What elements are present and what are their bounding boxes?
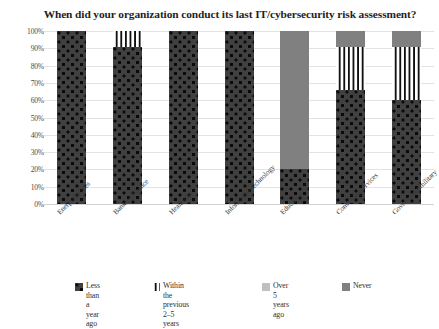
y-axis-tick-label: 80% xyxy=(2,61,44,70)
legend-swatch xyxy=(342,283,350,291)
legend-label: Within the previous 2–5 years xyxy=(163,281,189,329)
legend-swatch xyxy=(152,283,160,291)
bar-segment[interactable] xyxy=(392,47,421,101)
y-axis-tick-label: 0% xyxy=(2,200,44,209)
y-axis-tick-label: 100% xyxy=(2,27,44,36)
bar-column[interactable] xyxy=(225,31,254,204)
bar-column[interactable] xyxy=(169,31,198,204)
bar-column[interactable] xyxy=(336,31,365,204)
y-axis: 0%10%20%30%40%50%60%70%80%90%100% xyxy=(0,31,44,204)
bar-segment[interactable] xyxy=(113,31,142,47)
bar-segment[interactable] xyxy=(336,47,365,90)
bar-segment[interactable] xyxy=(280,31,309,169)
chart-legend: Less than a year agoWithin the previous … xyxy=(0,282,439,316)
y-axis-tick-label: 90% xyxy=(2,44,44,53)
legend-label: Never xyxy=(353,281,372,291)
legend-label: Less than a year ago xyxy=(86,281,100,329)
bar-segment[interactable] xyxy=(336,31,365,47)
y-axis-tick-label: 40% xyxy=(2,130,44,139)
y-axis-tick-label: 10% xyxy=(2,182,44,191)
bar-column[interactable] xyxy=(57,31,86,204)
legend-swatch xyxy=(262,283,270,291)
bar-column[interactable] xyxy=(392,31,421,204)
bar-segment[interactable] xyxy=(57,31,86,204)
y-axis-tick-label: 20% xyxy=(2,165,44,174)
bar-segment[interactable] xyxy=(392,31,421,47)
y-axis-tick-label: 60% xyxy=(2,96,44,105)
bar-segment[interactable] xyxy=(113,47,142,204)
bar-column[interactable] xyxy=(280,31,309,204)
chart-title: When did your organization conduct its l… xyxy=(30,8,430,20)
y-axis-tick-label: 50% xyxy=(2,113,44,122)
bar-segment[interactable] xyxy=(225,31,254,204)
y-axis-tick-label: 30% xyxy=(2,148,44,157)
bar-column[interactable] xyxy=(113,31,142,204)
bar-segment[interactable] xyxy=(169,31,198,204)
legend-swatch xyxy=(75,283,83,291)
y-axis-tick-label: 70% xyxy=(2,78,44,87)
legend-label: Over 5 years ago xyxy=(273,281,289,319)
